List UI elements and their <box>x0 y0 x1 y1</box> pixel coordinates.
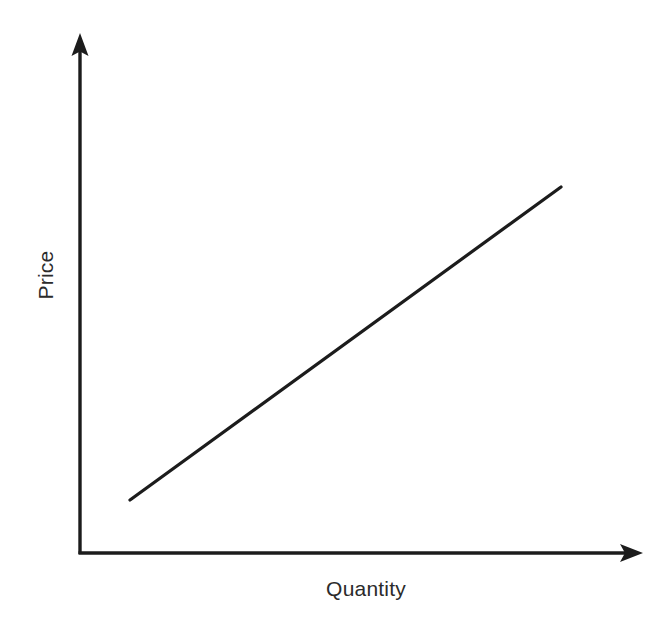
x-axis-label: Quantity <box>296 577 436 601</box>
chart-canvas <box>0 0 672 635</box>
chart-figure: Price Quantity <box>0 0 672 635</box>
supply-curve-line <box>130 187 561 500</box>
y-axis-label: Price <box>33 229 59 321</box>
